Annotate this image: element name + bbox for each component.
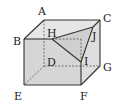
label-h: H [47, 27, 57, 40]
label-g: G [103, 61, 112, 74]
cube-diagram: A B C D E F G H I J [0, 0, 118, 104]
label-d: D [47, 56, 56, 69]
label-i: I [84, 55, 88, 68]
label-e: E [14, 90, 22, 103]
label-f: F [80, 90, 88, 103]
label-b: B [13, 35, 21, 48]
label-c: C [103, 12, 111, 25]
label-a: A [37, 5, 47, 18]
label-j: J [91, 30, 96, 43]
